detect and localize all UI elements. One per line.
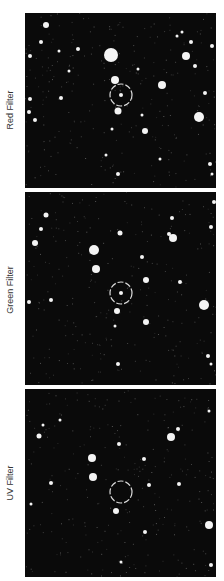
star bbox=[111, 128, 114, 131]
star bbox=[211, 173, 214, 176]
star bbox=[116, 172, 120, 176]
star bbox=[181, 31, 184, 34]
star bbox=[205, 521, 213, 529]
star bbox=[27, 110, 31, 114]
star bbox=[178, 280, 182, 284]
star bbox=[76, 47, 80, 51]
star bbox=[27, 300, 31, 304]
star bbox=[199, 300, 209, 310]
star bbox=[115, 108, 122, 115]
star bbox=[208, 410, 211, 413]
panel-label-uv: UV Filter bbox=[5, 465, 15, 500]
star bbox=[212, 200, 216, 204]
star bbox=[169, 234, 177, 242]
star bbox=[143, 277, 149, 283]
star bbox=[49, 298, 53, 302]
star bbox=[113, 508, 119, 514]
star bbox=[117, 442, 121, 446]
star bbox=[182, 52, 190, 60]
star-field-svg bbox=[25, 192, 216, 385]
star-field-red bbox=[25, 13, 216, 188]
star bbox=[142, 457, 146, 461]
star-field-svg bbox=[25, 389, 216, 577]
star bbox=[208, 162, 212, 166]
star bbox=[158, 81, 166, 89]
star bbox=[194, 112, 204, 122]
star-field-green bbox=[25, 192, 216, 385]
star bbox=[143, 530, 147, 534]
star bbox=[33, 118, 37, 122]
star bbox=[206, 354, 210, 358]
star bbox=[114, 308, 120, 314]
star bbox=[147, 483, 151, 487]
star bbox=[114, 325, 117, 328]
star bbox=[88, 454, 96, 462]
star bbox=[119, 93, 123, 97]
star bbox=[104, 48, 118, 62]
star bbox=[210, 363, 213, 366]
star bbox=[92, 265, 100, 273]
star bbox=[167, 433, 175, 441]
star bbox=[37, 434, 42, 439]
star bbox=[28, 97, 32, 101]
star bbox=[58, 50, 61, 53]
star bbox=[176, 427, 180, 431]
panel-label-red: Red Filter bbox=[5, 90, 15, 129]
star bbox=[89, 473, 97, 481]
star bbox=[203, 91, 207, 95]
star bbox=[59, 419, 62, 422]
star bbox=[32, 240, 38, 246]
star bbox=[42, 424, 45, 427]
star bbox=[140, 255, 144, 259]
star bbox=[141, 114, 144, 117]
star bbox=[142, 128, 148, 134]
star bbox=[119, 291, 123, 295]
star bbox=[30, 503, 33, 506]
star-field-uv bbox=[25, 389, 216, 577]
star bbox=[159, 158, 162, 161]
star bbox=[209, 563, 213, 567]
star bbox=[120, 561, 123, 564]
star bbox=[89, 245, 99, 255]
target-circle-marker bbox=[110, 481, 132, 503]
star bbox=[68, 70, 71, 73]
star bbox=[105, 154, 108, 157]
star bbox=[210, 44, 214, 48]
star bbox=[170, 216, 174, 220]
star-field-svg bbox=[25, 13, 216, 188]
star bbox=[137, 68, 140, 71]
star bbox=[143, 319, 149, 325]
star bbox=[193, 64, 197, 68]
star bbox=[49, 481, 53, 485]
star bbox=[44, 213, 49, 218]
star bbox=[176, 35, 179, 38]
star bbox=[39, 227, 43, 231]
star bbox=[111, 76, 119, 84]
star bbox=[59, 96, 63, 100]
star bbox=[28, 54, 32, 58]
star bbox=[43, 22, 49, 28]
star bbox=[189, 40, 193, 44]
star bbox=[209, 225, 213, 229]
panel-label-green: Green Filter bbox=[5, 266, 15, 314]
star bbox=[39, 40, 43, 44]
star bbox=[177, 482, 181, 486]
star bbox=[118, 231, 123, 236]
star bbox=[116, 362, 120, 366]
